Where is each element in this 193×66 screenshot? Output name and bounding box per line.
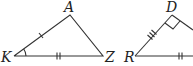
label-z: Z [104, 49, 115, 65]
label-a: A [62, 0, 74, 15]
triangle-kaz: A K Z [0, 0, 115, 65]
triangles-diagram: A K Z D R [0, 0, 193, 66]
side-d-right [172, 15, 193, 30]
triangle-kaz-sides [14, 15, 103, 56]
label-k: K [0, 49, 13, 65]
label-r: R [123, 49, 135, 65]
label-d: D [165, 0, 177, 15]
triangle-rd: D R [123, 0, 193, 65]
right-angle-mark [165, 21, 180, 29]
angle-k-arc [24, 49, 26, 56]
